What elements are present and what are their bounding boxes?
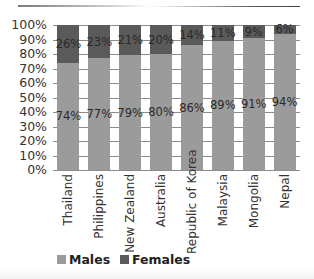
- y-tick-label: 90%: [3, 34, 47, 46]
- data-label-females: 14%: [179, 28, 205, 42]
- gridline: [53, 170, 300, 171]
- y-tick-label: 50%: [3, 92, 47, 104]
- data-label-males: 79%: [117, 106, 143, 120]
- data-label-females: 9%: [245, 25, 263, 39]
- bar-thailand: 26%74%: [57, 25, 79, 170]
- data-label-males: 91%: [241, 97, 267, 111]
- bar-segment-females: 11%: [212, 25, 234, 41]
- bar-segment-females: 21%: [119, 25, 141, 55]
- x-tick-label: New Zealand: [123, 174, 137, 254]
- legend-item-males: Males: [57, 252, 110, 267]
- bar-philippines: 23%77%: [88, 25, 110, 170]
- x-tick-label: Australia: [154, 174, 168, 254]
- bar-mongolia: 9%91%: [243, 25, 265, 170]
- data-label-males: 86%: [179, 101, 205, 115]
- data-label-males: 94%: [272, 95, 298, 109]
- data-label-males: 89%: [210, 98, 236, 112]
- bar-republic-of-korea: 14%86%: [181, 25, 203, 170]
- x-tick-label: Republic of Korea: [185, 174, 199, 254]
- legend-label-males: Males: [69, 252, 110, 267]
- y-tick-label: 0%: [3, 164, 47, 176]
- y-tick-label: 40%: [3, 106, 47, 118]
- data-label-females: 23%: [87, 35, 113, 49]
- decorative-top-rule: [18, 5, 150, 7]
- data-label-females: 11%: [210, 26, 236, 40]
- y-tick-label: 70%: [3, 63, 47, 75]
- x-tick-label: Mongolia: [247, 174, 261, 254]
- data-label-males: 74%: [56, 109, 82, 123]
- data-label-females: 21%: [117, 33, 143, 47]
- x-tick-label: Malaysia: [216, 174, 230, 254]
- bar-nepal: 6%94%: [274, 25, 296, 170]
- legend-item-females: Females: [120, 252, 190, 267]
- legend-label-females: Females: [132, 252, 190, 267]
- plot-area: 26%74%23%77%21%79%20%80%14%86%11%89%9%91…: [53, 25, 300, 170]
- bar-segment-males: 89%: [212, 41, 234, 170]
- bar-segment-females: 23%: [88, 25, 110, 58]
- legend-swatch-males: [57, 255, 66, 264]
- bar-segment-males: 91%: [243, 38, 265, 170]
- y-tick-label: 80%: [3, 48, 47, 60]
- data-label-females: 26%: [56, 37, 82, 51]
- bar-segment-males: 77%: [88, 58, 110, 170]
- data-label-males: 80%: [148, 105, 174, 119]
- y-tick-label: 10%: [3, 150, 47, 162]
- bar-segment-males: 94%: [274, 34, 296, 170]
- data-label-males: 77%: [87, 107, 113, 121]
- legend: Males Females: [57, 252, 190, 267]
- bottom-shade: [0, 268, 314, 279]
- decorative-top-rule-right: [150, 6, 300, 7]
- x-tick-label: Thailand: [61, 174, 75, 254]
- bar-segment-females: 26%: [57, 25, 79, 63]
- bar-segment-females: 14%: [181, 25, 203, 45]
- y-tick-label: 100%: [3, 19, 47, 31]
- bar-segment-males: 74%: [57, 63, 79, 170]
- bar-malaysia: 11%89%: [212, 25, 234, 170]
- bar-segment-females: 9%: [243, 25, 265, 38]
- bar-segment-males: 80%: [150, 54, 172, 170]
- x-tick-label: Philippines: [92, 174, 106, 254]
- y-tick-label: 30%: [3, 121, 47, 133]
- bar-segment-females: 6%: [274, 25, 296, 34]
- y-tick-label: 20%: [3, 135, 47, 147]
- legend-swatch-females: [120, 255, 129, 264]
- bar-segment-females: 20%: [150, 25, 172, 54]
- bar-segment-males: 79%: [119, 55, 141, 170]
- data-label-females: 20%: [148, 33, 174, 47]
- x-tick-label: Nepal: [278, 174, 292, 254]
- bar-new-zealand: 21%79%: [119, 25, 141, 170]
- y-tick-label: 60%: [3, 77, 47, 89]
- bar-australia: 20%80%: [150, 25, 172, 170]
